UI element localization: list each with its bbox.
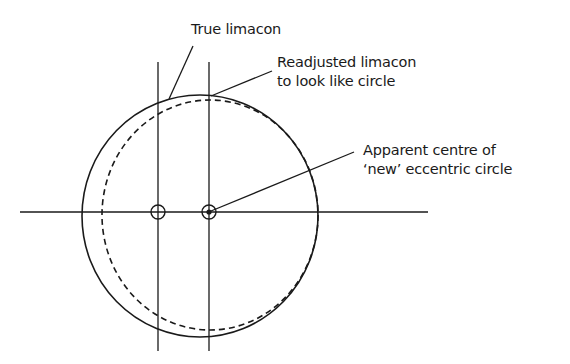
leader-readjusted-limacon <box>211 71 272 96</box>
label-apparent-centre-line1: Apparent centre of <box>363 141 496 160</box>
label-readjusted-limacon-line2: to look like circle <box>277 72 395 91</box>
leader-apparent-centre <box>211 152 354 211</box>
readjusted-limacon-curve <box>102 100 318 330</box>
label-apparent-centre-line2: ‘new’ eccentric circle <box>363 160 512 179</box>
label-true-limacon: True limacon <box>191 20 281 39</box>
label-readjusted-limacon-line1: Readjusted limacon <box>277 53 416 72</box>
apparent-centre-dot <box>206 209 211 214</box>
leader-true-limacon <box>169 46 193 99</box>
